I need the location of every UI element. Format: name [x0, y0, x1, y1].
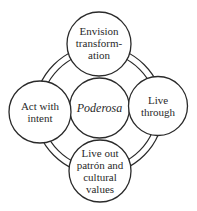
center-node-label: Poderosa [76, 101, 123, 115]
center-node: Poderosa [70, 78, 130, 138]
node-bottom-label-line: Live out [82, 147, 119, 159]
node-right-label-line: Live [148, 94, 168, 106]
poderosa-cycle-diagram: Poderosa Envision transform- ation Act w… [0, 0, 197, 211]
node-left: Act with intent [9, 81, 71, 143]
node-top-label-line: ation [88, 49, 110, 61]
node-top-label-line: Envision [79, 25, 119, 37]
node-left-label-line: intent [27, 112, 52, 124]
node-top-label-line: transform- [76, 37, 123, 49]
node-bottom-label-line: cultural [83, 171, 117, 183]
node-right-label-line: through [141, 106, 176, 118]
node-top: Envision transform- ation [67, 12, 131, 76]
node-bottom: Live out patrón and cultural values [69, 140, 131, 202]
node-right: Live through [129, 77, 188, 136]
node-left-label-line: Act with [21, 100, 60, 112]
node-bottom-label-line: values [86, 183, 114, 195]
node-bottom-label-line: patrón and [77, 159, 124, 171]
